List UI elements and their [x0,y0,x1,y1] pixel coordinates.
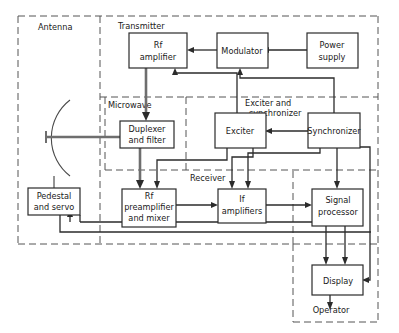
block-exciter-label-1: Exciter [226,126,255,136]
block-power-supply-label-2: supply [319,52,346,62]
terminal-operator-label: Operator [313,305,350,315]
block-rf-preamplifier-label-1: Rf [145,191,155,201]
block-power-supply[interactable]: Power supply [307,33,358,68]
block-power-supply-box[interactable] [307,33,358,68]
block-exciter[interactable]: Exciter [215,113,266,148]
block-modulator-label-1: Modulator [221,46,263,56]
radar-block-diagram: Antenna Transmitter Microwave Exciter an… [0,0,399,333]
block-duplexer-label-2: and filter [128,135,166,145]
block-display[interactable]: Display [312,265,363,295]
block-pedestal[interactable]: Pedestal and servo [28,188,80,215]
block-rf-amplifier-box[interactable] [129,33,187,68]
region-label-receiver: Receiver [190,173,226,183]
block-rf-preamplifier[interactable]: Rf preamplifier and mixer [122,189,176,227]
block-rf-preamplifier-label-3: and mixer [128,213,170,223]
block-synchronizer-label-1: Synchronizer [307,126,361,136]
block-duplexer-label-1: Duplexer [129,124,166,134]
region-label-exciter-sync-line1: Exciter and [245,98,291,108]
block-rf-amplifier-label-1: Rf [154,40,164,50]
region-label-transmitter: Transmitter [117,21,165,31]
region-label-antenna: Antenna [38,22,72,32]
block-signal-processor-label-1: Signal [325,195,350,205]
block-duplexer[interactable]: Duplexer and filter [120,121,174,148]
block-rf-amplifier-label-2: amplifier [140,52,177,62]
block-rf-preamplifier-label-2: preamplifier [124,202,174,212]
block-display-label-1: Display [323,276,353,286]
block-if-amplifiers-label-2: amplifiers [222,206,263,216]
block-synchronizer[interactable]: Synchronizer [307,113,361,148]
diagram-canvas: Antenna Transmitter Microwave Exciter an… [0,0,399,333]
block-rf-amplifier[interactable]: Rf amplifier [129,33,187,68]
block-modulator[interactable]: Modulator [217,33,268,68]
block-power-supply-label-1: Power [320,40,345,50]
block-if-amplifiers[interactable]: If amplifiers [218,189,266,223]
block-signal-processor[interactable]: Signal processor [312,189,363,226]
block-pedestal-label-2: and servo [34,202,75,212]
block-signal-processor-label-2: processor [318,207,358,217]
block-pedestal-label-1: Pedestal [37,191,72,201]
